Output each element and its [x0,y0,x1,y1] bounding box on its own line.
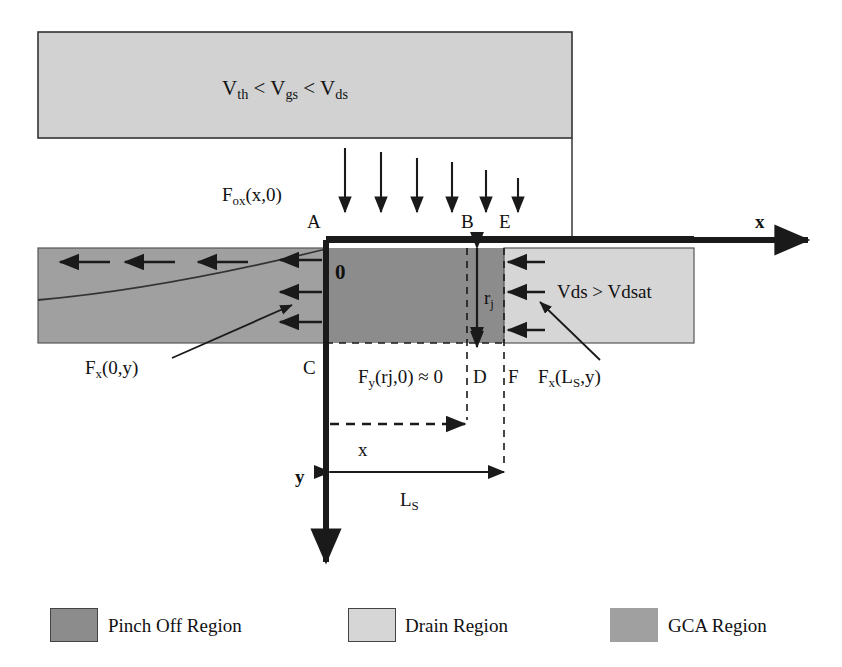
gate-bias-expression: Vth < Vgs < Vds [222,78,348,101]
oxide-field-label: Fox(x,0) [222,185,282,208]
x-dimension-label: x [358,440,368,459]
diagram-vector-layer [0,0,842,667]
node-label-b: B [461,212,474,231]
node-label-e: E [499,212,511,231]
legend-swatch-drain [348,608,396,642]
vertical-field-label: Fy(rj,0) ≈ 0 [358,367,443,390]
legend-swatch-pinch-off [50,608,98,642]
gate-v1: Vth [222,76,248,100]
node-label-d: D [473,367,487,386]
gate-op2: < [298,76,320,100]
gate-v3: Vds [320,76,348,100]
gate-op1: < [248,76,270,100]
legend-label-pinch-off: Pinch Off Region [108,615,242,637]
ls-dimension-label: LS [400,490,419,513]
drain-condition-label: Vds > Vdsat [557,282,652,301]
legend-label-drain: Drain Region [405,615,508,637]
diagram-canvas: Vth < Vgs < Vds Fox(x,0) A B E C D F 0 x… [0,0,842,667]
legend-swatch-gca [610,608,658,642]
legend-label-gca: GCA Region [668,615,767,637]
oxide-field-arrows [345,148,518,212]
origin-label: 0 [335,262,346,283]
node-label-c: C [303,358,316,377]
right-field-label: Fx(LS,y) [538,367,601,390]
node-label-f: F [508,367,519,386]
interface-bar [326,236,694,243]
gate-v2: Vgs [270,76,298,100]
x-axis-label: x [755,212,765,231]
node-label-a: A [307,212,321,231]
rj-dimension-label: rj [484,288,494,311]
left-field-label: Fx(0,y) [85,358,138,381]
y-axis-label: y [295,467,305,486]
